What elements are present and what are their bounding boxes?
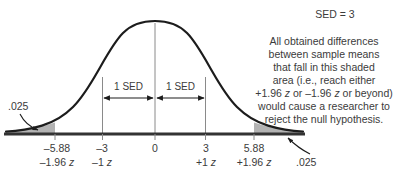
annot-suffix: or beyond) bbox=[340, 87, 393, 99]
axis-z-num-0: –1.96 bbox=[40, 156, 69, 168]
tail-probability-left-label: .025 bbox=[8, 100, 29, 112]
sed-span-label-left: 1 SED bbox=[114, 81, 143, 92]
axis-label-z-0: –1.96 z bbox=[40, 156, 75, 168]
annot-middle: or –1.96 bbox=[290, 87, 334, 99]
annot-prefix: +1.96 bbox=[255, 87, 285, 99]
axis-label-z-3: +1 z bbox=[196, 156, 217, 168]
axis-z-sym-0: z bbox=[68, 156, 75, 168]
axis-z-num-4: +1.96 bbox=[237, 156, 267, 168]
axis-z-num-3: +1 bbox=[196, 156, 211, 168]
tail-probability-right-label: .025 bbox=[296, 156, 317, 168]
annotation-line-2: that fall in this shaded bbox=[273, 61, 375, 73]
annotation-line-zscore: +1.96 z or –1.96 z or beyond) bbox=[255, 87, 393, 99]
axis-z-sym-4: z bbox=[265, 156, 272, 168]
axis-label-value-3: 3 bbox=[203, 142, 209, 154]
figure-canvas: 1 SED 1 SED .025 .025 –5.88 –3 0 3 5.88 … bbox=[0, 0, 398, 177]
axis-label-value-2: 0 bbox=[152, 142, 158, 154]
annotation-line-3: area (i.e., reach either bbox=[273, 74, 376, 86]
distribution-figure: 1 SED 1 SED .025 .025 –5.88 –3 0 3 5.88 … bbox=[0, 0, 398, 177]
axis-z-sym-1: z bbox=[106, 156, 113, 168]
axis-label-z-1: –1 z bbox=[92, 156, 113, 168]
annotation-line-4: would cause a researcher to bbox=[257, 100, 390, 112]
annotation-line-5: reject the null hypothesis. bbox=[265, 113, 383, 125]
annotation-line-0: All obtained differences bbox=[270, 35, 379, 47]
axis-label-value-0: –5.88 bbox=[44, 142, 70, 154]
tail-callout-arrow-right bbox=[288, 138, 310, 154]
axis-z-sym-3: z bbox=[210, 156, 217, 168]
sed-header-label: SED = 3 bbox=[315, 8, 355, 20]
sed-span-label-right: 1 SED bbox=[166, 81, 195, 92]
annotation-line-1: between sample means bbox=[269, 48, 380, 60]
axis-label-z-4: +1.96 z bbox=[237, 156, 273, 168]
axis-label-value-1: –3 bbox=[96, 142, 108, 154]
axis-label-value-4: 5.88 bbox=[244, 142, 265, 154]
axis-z-num-1: –1 bbox=[92, 156, 107, 168]
